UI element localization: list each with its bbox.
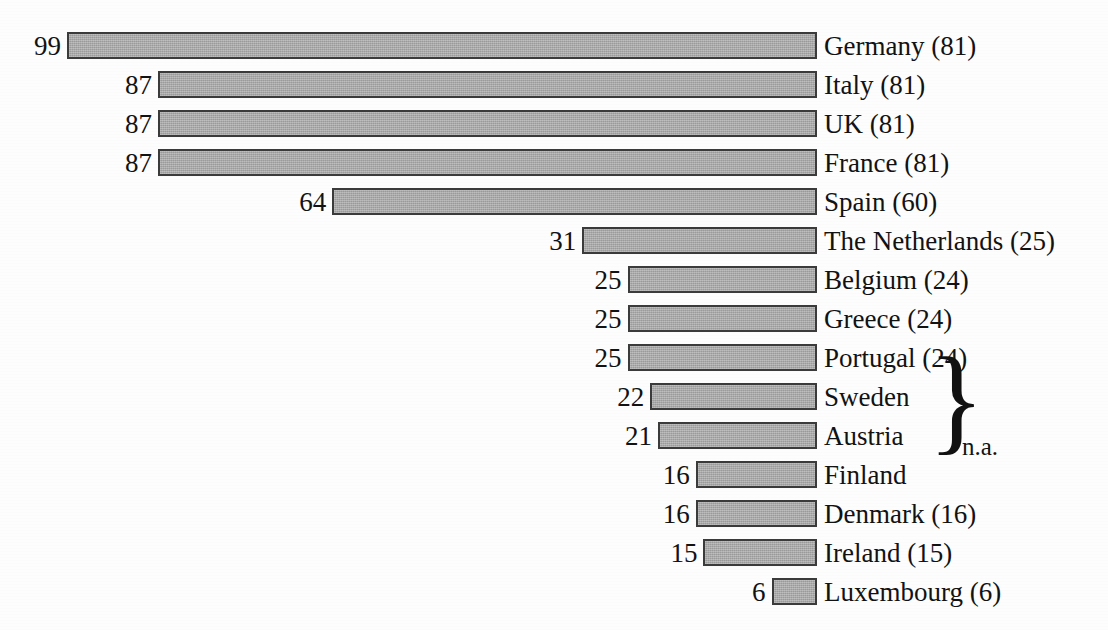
bar <box>628 344 817 371</box>
bar-category-label: The Netherlands (25) <box>824 227 1055 254</box>
bar-row: 64Spain (60) <box>0 188 1108 215</box>
bar-chart: 99Germany (81)87Italy (81)87UK (81)87Fra… <box>0 0 1108 630</box>
bar-value-label: 6 <box>752 578 766 605</box>
bar-value-label: 25 <box>595 344 622 371</box>
bar <box>158 110 817 137</box>
bar <box>628 266 817 293</box>
bar-row: 87France (81) <box>0 149 1108 176</box>
bar-category-label: Sweden <box>824 383 909 410</box>
bar <box>158 149 817 176</box>
bar-value-label: 16 <box>663 461 690 488</box>
na-label: n.a. <box>962 434 998 459</box>
bar <box>658 422 817 449</box>
bar-value-label: 64 <box>299 188 326 215</box>
bar-row: 87UK (81) <box>0 110 1108 137</box>
bar-row: 6Luxembourg (6) <box>0 578 1108 605</box>
bar <box>332 188 817 215</box>
bar-value-label: 21 <box>625 422 652 449</box>
bar-category-label: France (81) <box>824 149 949 176</box>
bar-category-label: Finland <box>824 461 907 488</box>
bar <box>628 305 817 332</box>
bar-value-label: 87 <box>125 149 152 176</box>
bar-value-label: 15 <box>670 539 697 566</box>
bar <box>696 500 817 527</box>
bar <box>772 578 817 605</box>
bar-value-label: 22 <box>617 383 644 410</box>
bar-row: 99Germany (81) <box>0 32 1108 59</box>
bar-category-label: Germany (81) <box>824 32 976 59</box>
bar <box>696 461 817 488</box>
bar-value-label: 87 <box>125 71 152 98</box>
bar-category-label: Luxembourg (6) <box>824 578 1001 605</box>
bar <box>158 71 817 98</box>
bar-category-label: Denmark (16) <box>824 500 976 527</box>
bar <box>67 32 817 59</box>
bar-row: 16Finland <box>0 461 1108 488</box>
bar <box>703 539 817 566</box>
bar-value-label: 25 <box>595 305 622 332</box>
bar-row: 25Belgium (24) <box>0 266 1108 293</box>
bar-value-label: 87 <box>125 110 152 137</box>
bar-value-label: 25 <box>595 266 622 293</box>
bar-category-label: Italy (81) <box>824 71 925 98</box>
bar-category-label: Belgium (24) <box>824 266 969 293</box>
bar-row: 31The Netherlands (25) <box>0 227 1108 254</box>
bar-row: 16Denmark (16) <box>0 500 1108 527</box>
bar <box>650 383 817 410</box>
bar-category-label: Greece (24) <box>824 305 952 332</box>
bar-category-label: Ireland (15) <box>824 539 952 566</box>
bar-value-label: 16 <box>663 500 690 527</box>
bar-row: 15Ireland (15) <box>0 539 1108 566</box>
bar-category-label: Spain (60) <box>824 188 937 215</box>
bar <box>582 227 817 254</box>
bar-category-label: Austria <box>824 422 903 449</box>
bar-value-label: 99 <box>34 32 61 59</box>
bar-value-label: 31 <box>549 227 576 254</box>
bar-row: 25Greece (24) <box>0 305 1108 332</box>
bar-row: 87Italy (81) <box>0 71 1108 98</box>
bar-category-label: UK (81) <box>824 110 915 137</box>
